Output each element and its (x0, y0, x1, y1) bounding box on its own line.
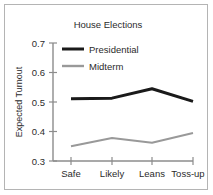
chart-legend: Presidential Midterm (62, 44, 139, 72)
line-chart: House Elections Expected Turnout 0.7 0.6… (0, 0, 213, 195)
y-tick-label-1: 0.6 (32, 67, 45, 78)
chart-figure: House Elections Expected Turnout 0.7 0.6… (0, 0, 213, 195)
x-tick-label-leans: Leans (139, 168, 165, 179)
y-tick-label-3: 0.4 (32, 126, 45, 137)
series-line-presidential (71, 89, 193, 102)
legend-label-midterm: Midterm (89, 61, 123, 72)
x-tick-label-likely: Likely (100, 168, 125, 179)
chart-title: House Elections (74, 19, 143, 30)
y-tick-label-0: 0.7 (32, 38, 45, 49)
x-tick-label-safe: Safe (61, 168, 81, 179)
y-tick-label-2: 0.5 (32, 97, 45, 108)
y-tick-label-4: 0.3 (32, 156, 45, 167)
series-line-midterm (71, 133, 193, 146)
legend-label-presidential: Presidential (89, 44, 139, 55)
x-tick-label-tossup: Toss-up (171, 168, 204, 179)
y-axis-label: Expected Turnout (14, 66, 24, 137)
